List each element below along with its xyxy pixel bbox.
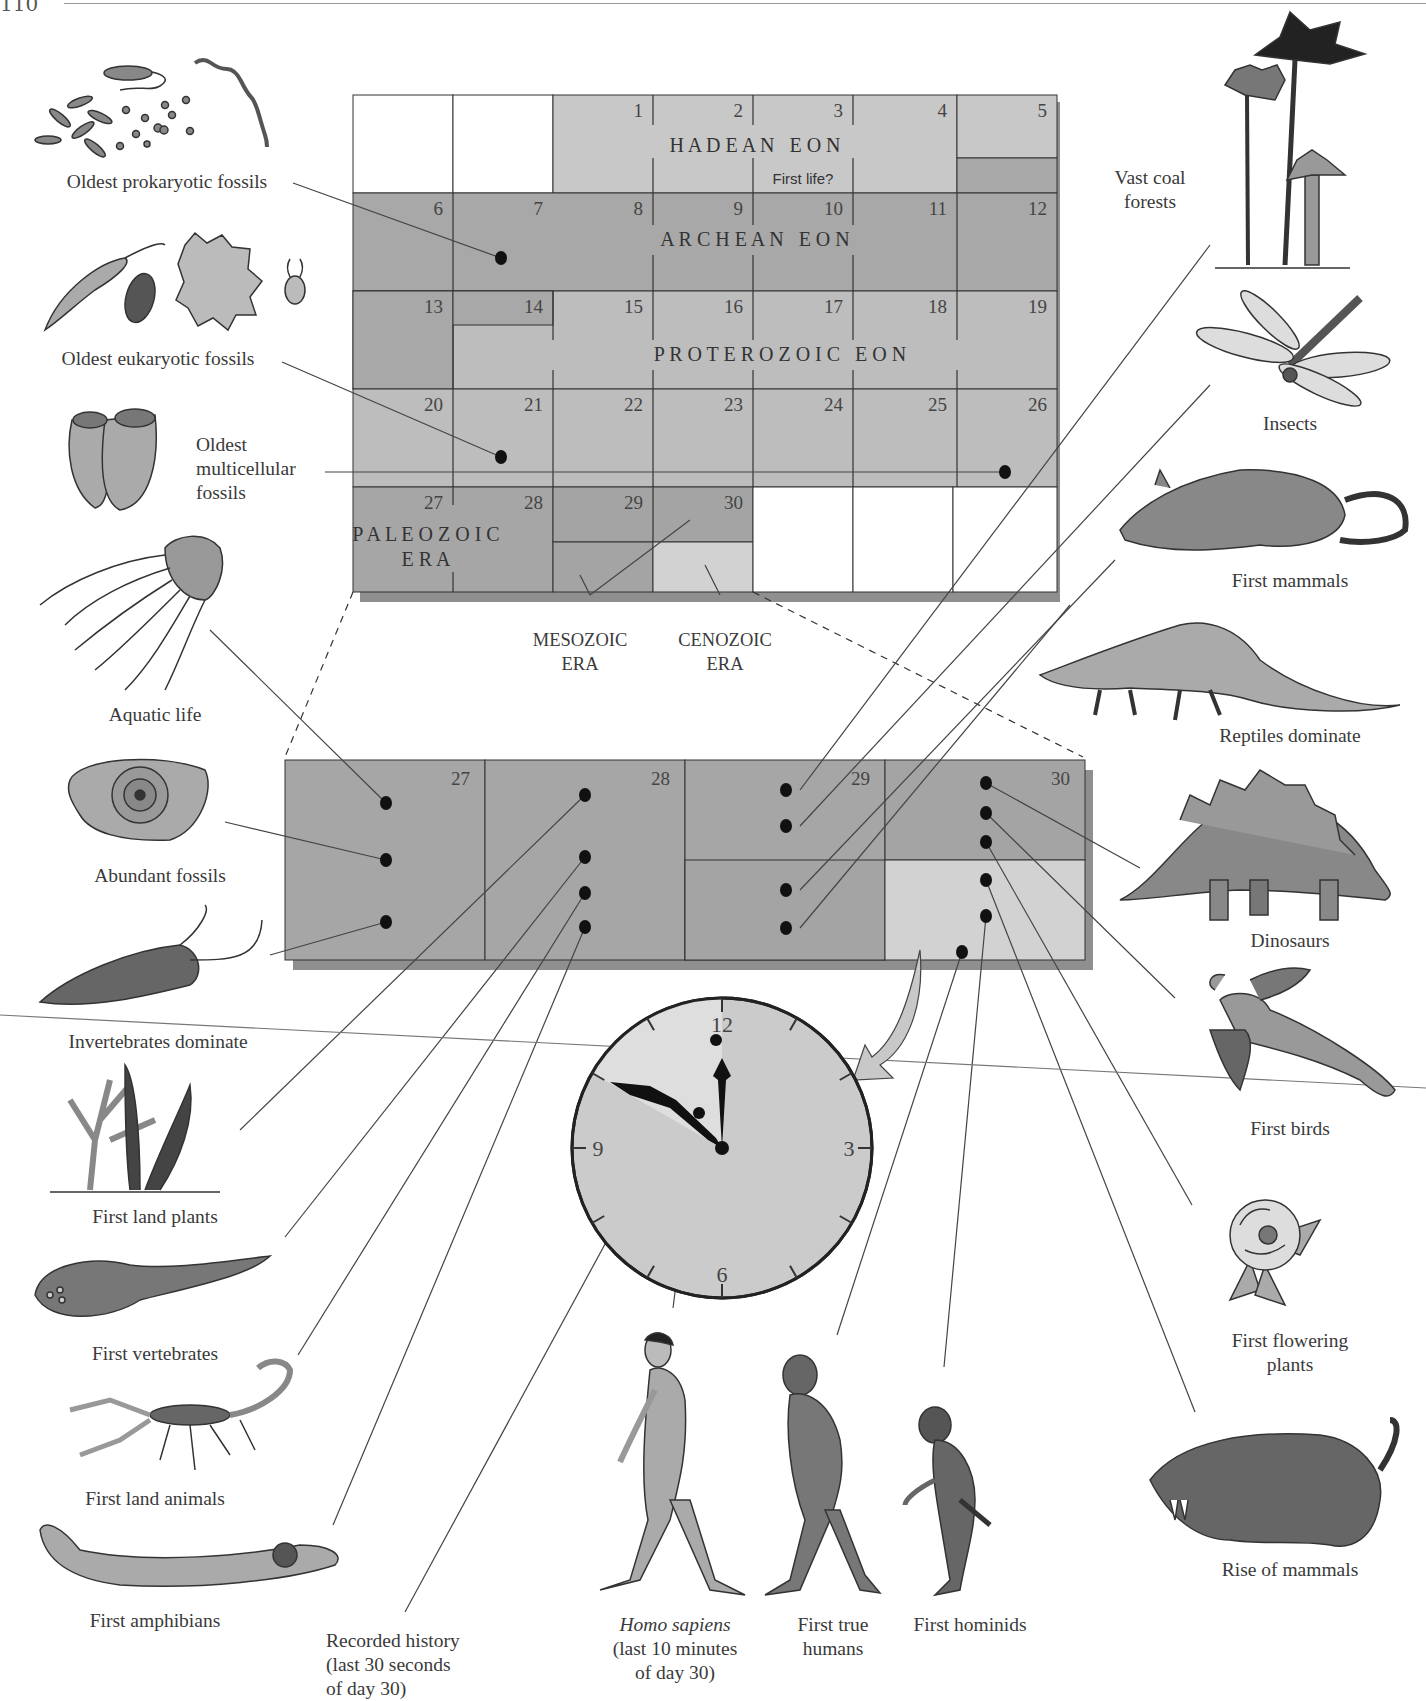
archaeopteryx-icon (1210, 968, 1395, 1096)
bacteria-icon (35, 60, 267, 159)
day-number: 27 (424, 492, 443, 513)
paleozoic-era-label-2: E R A (402, 548, 451, 570)
day-number: 6 (434, 198, 444, 219)
day-number: 30 (724, 492, 743, 513)
day-number: 2 (734, 100, 744, 121)
label-abundant: Abundant fossils (60, 864, 260, 888)
day-number: 13 (424, 296, 443, 317)
label-multicellular: Oldest multicellular fossils (196, 433, 296, 505)
label-insects: Insects (1240, 412, 1340, 436)
label-reptiles: Reptiles dominate (1195, 724, 1385, 748)
day-number: 1 (634, 100, 644, 121)
clock-numeral-12: 12 (711, 1012, 733, 1037)
day-number: 28 (524, 492, 543, 513)
marker-true-humans (956, 945, 968, 959)
day-5-archean (957, 158, 1057, 193)
label-rise-mammals: Rise of mammals (1195, 1558, 1385, 1582)
detail-day-29-mesozoic (685, 860, 885, 960)
clock-center (715, 1141, 729, 1155)
day-number: 7 (534, 198, 544, 219)
day-number: 3 (834, 100, 844, 121)
paleozoic-era-label: P A L E O Z O I C (352, 523, 499, 545)
empty-cell (753, 487, 853, 592)
day-number: 26 (1028, 394, 1047, 415)
jawless-fish-icon (35, 1256, 270, 1316)
mesozoic-cell (553, 542, 653, 592)
label-hominids: First hominids (895, 1613, 1045, 1637)
homo-sapiens-icon (600, 1333, 745, 1595)
label-recorded-history: Recorded history (last 30 seconds of day… (326, 1629, 460, 1701)
clock-numeral-6: 6 (717, 1262, 728, 1287)
sabertooth-icon (1150, 1420, 1397, 1546)
label-homo-sapiens: Homo sapiens (last 10 minutes of day 30) (585, 1613, 765, 1685)
label-aquatic: Aquatic life (70, 703, 240, 727)
label-land-plants: First land plants (60, 1205, 250, 1229)
multicellular-fossil-icon (69, 409, 156, 510)
empty-cell (953, 487, 1057, 592)
clock: 12 3 6 9 (572, 998, 872, 1298)
day-number: 17 (824, 296, 843, 317)
protist-icon (45, 233, 305, 330)
label-cenozoic-era: CENOZOIC ERA (660, 628, 790, 676)
detail-day-label: 29 (851, 768, 870, 789)
marker-flowering (980, 835, 992, 849)
land-plant-icon (50, 1065, 220, 1192)
label-land-animals: First land animals (55, 1487, 255, 1511)
day-number: 29 (624, 492, 643, 513)
day-number: 14 (524, 296, 544, 317)
marker-birds (980, 806, 992, 820)
reptile-icon (1040, 623, 1400, 720)
empty-cell (353, 95, 453, 193)
marker-reptiles (780, 921, 792, 935)
label-invertebrates: Invertebrates dominate (38, 1030, 278, 1054)
hominid-icon (905, 1407, 990, 1595)
marker-multicellular (999, 465, 1011, 479)
first-life-note: First life? (773, 170, 834, 187)
calendar-grid: 1234567891011121314151617181920212223242… (352, 95, 1060, 602)
label-eukaryotic: Oldest eukaryotic fossils (38, 347, 278, 371)
day-number: 4 (938, 100, 948, 121)
marker-rise-mammals (980, 873, 992, 887)
dragonfly-icon (1194, 285, 1391, 413)
cenozoic-cell (653, 542, 753, 592)
marker-coal-forests (780, 783, 792, 797)
homo-erectus-icon (765, 1355, 880, 1595)
day-number: 19 (1028, 296, 1047, 317)
marker-eukaryotic (495, 450, 507, 464)
label-dinosaurs: Dinosaurs (1230, 929, 1350, 953)
ammonite-fossil-icon (68, 759, 208, 840)
marker-mammals (780, 883, 792, 897)
day-number: 25 (928, 394, 947, 415)
label-amphibians: First amphibians (60, 1609, 250, 1633)
day-number: 10 (824, 198, 843, 219)
detail-day-label: 27 (451, 768, 470, 789)
day-number: 9 (734, 198, 744, 219)
label-true-humans: First true humans (778, 1613, 888, 1661)
marker-aquatic (380, 796, 392, 810)
day-number: 5 (1038, 100, 1048, 121)
detail-calendar: 27 28 29 30 (285, 760, 1093, 970)
archean-eon-label: A R C H E A N E O N (660, 228, 849, 250)
marker-prokaryotic (495, 251, 507, 265)
day-number: 16 (724, 296, 743, 317)
stegosaurus-icon (1120, 770, 1390, 920)
detail-day-label: 28 (651, 768, 670, 789)
trilobite-icon (40, 905, 262, 1004)
coal-forest-icon (1215, 12, 1365, 268)
empty-cell (453, 95, 553, 193)
day-number: 22 (624, 394, 643, 415)
empty-cell (853, 487, 953, 592)
day-number: 23 (724, 394, 743, 415)
geologic-calendar-diagram: 1234567891011121314151617181920212223242… (0, 0, 1426, 1701)
jellyfish-icon (40, 536, 222, 690)
day-number: 24 (824, 394, 844, 415)
clock-numeral-3: 3 (844, 1136, 855, 1161)
day-number: 21 (524, 394, 543, 415)
day-number: 12 (1028, 198, 1047, 219)
marker-land-animals (579, 886, 591, 900)
label-vertebrates: First vertebrates (60, 1342, 250, 1366)
day-number: 11 (929, 198, 947, 219)
day-number: 18 (928, 296, 947, 317)
label-prokaryotic: Oldest prokaryotic fossils (38, 170, 296, 194)
marker-dinosaurs (980, 776, 992, 790)
